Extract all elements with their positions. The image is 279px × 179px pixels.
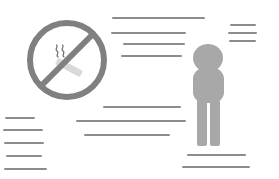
text-line (84, 134, 170, 136)
text-line (230, 24, 256, 26)
text-line (6, 155, 42, 157)
text-line (112, 17, 205, 19)
person-body (193, 68, 224, 103)
text-line (121, 55, 182, 57)
text-line (4, 168, 47, 170)
text-line (229, 40, 256, 42)
text-line (5, 117, 35, 119)
text-line (123, 43, 185, 45)
text-line (182, 166, 250, 168)
text-line (76, 120, 186, 122)
text-line (187, 154, 246, 156)
text-line (228, 32, 257, 34)
person-leg-right (210, 100, 220, 146)
text-line (3, 129, 43, 131)
text-line (103, 106, 181, 108)
scene-svg (0, 0, 279, 179)
text-line (4, 142, 44, 144)
text-line (111, 32, 186, 34)
person-head (193, 44, 223, 72)
person-leg-left (197, 100, 207, 146)
illustration-canvas: No Smoking Notice Illustration Flat gray… (0, 0, 279, 179)
